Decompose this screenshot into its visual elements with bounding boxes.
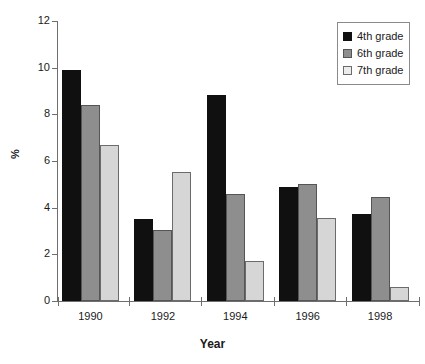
bar (81, 105, 100, 301)
bar (298, 184, 317, 301)
x-axis-tick-label: 1998 (350, 310, 410, 322)
bar (62, 70, 81, 301)
y-axis-tick-label: 2 (28, 248, 50, 259)
bar (153, 230, 172, 301)
legend-item: 4th grade (343, 28, 403, 45)
x-axis-tick-mark (274, 297, 275, 306)
bar (172, 172, 191, 302)
legend-label: 6th grade (357, 48, 403, 59)
legend-swatch-icon (343, 66, 352, 75)
bar (226, 194, 245, 301)
x-axis-tick-label: 1994 (205, 310, 265, 322)
bar (279, 187, 298, 301)
y-axis-tick-label: 8 (28, 108, 50, 119)
x-axis-tick-label: 1990 (61, 310, 121, 322)
chart-legend: 4th grade6th grade7th grade (337, 22, 410, 85)
x-axis-tick-mark (58, 297, 59, 306)
legend-label: 7th grade (357, 65, 403, 76)
x-axis-tick-label: 1992 (133, 310, 193, 322)
y-axis-tick-mark (52, 254, 58, 255)
legend-item: 6th grade (343, 45, 403, 62)
x-axis-line (57, 301, 420, 302)
y-axis-tick-label: 10 (28, 62, 50, 73)
bar (371, 197, 390, 301)
bar (100, 145, 119, 301)
y-axis-tick-mark (52, 114, 58, 115)
y-axis-tick-mark (52, 21, 58, 22)
y-axis-tick-label: 4 (28, 202, 50, 213)
bar (207, 95, 226, 302)
legend-swatch-icon (343, 49, 352, 58)
bar (352, 214, 371, 302)
legend-item: 7th grade (343, 62, 403, 79)
y-axis-tick-label: 6 (28, 155, 50, 166)
y-axis-tick-labels: 024681012 (28, 0, 50, 302)
y-axis-tick-mark (52, 161, 58, 162)
y-axis-tick-mark (52, 68, 58, 69)
bar-chart: % 024681012 Year 4th grade6th grade7th g… (0, 0, 425, 364)
legend-label: 4th grade (357, 31, 403, 42)
x-axis-tick-mark (419, 297, 420, 306)
y-axis-tick-label: 0 (28, 295, 50, 306)
x-axis-tick-mark (346, 297, 347, 306)
y-axis-tick-mark (52, 208, 58, 209)
bar (134, 219, 153, 301)
y-axis-tick-label: 12 (28, 15, 50, 26)
bar (317, 218, 336, 301)
x-axis-tick-label: 1996 (278, 310, 338, 322)
bar (390, 287, 409, 301)
y-axis-title: % (9, 143, 21, 165)
legend-swatch-icon (343, 32, 352, 41)
x-axis-tick-mark (201, 297, 202, 306)
bar (245, 261, 264, 301)
x-axis-tick-mark (129, 297, 130, 306)
x-axis-title: Year (0, 337, 425, 351)
